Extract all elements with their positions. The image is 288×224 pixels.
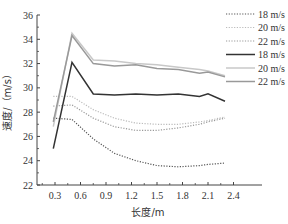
legend-label: 18 m/s — [258, 9, 285, 20]
y-tick-label: 24 — [23, 155, 33, 166]
x-tick-label: 2.4 — [227, 190, 240, 201]
y-tick-label: 34 — [23, 34, 33, 45]
y-axis-title: 速度/（m/s） — [1, 69, 13, 131]
x-tick-label: 1.2 — [125, 190, 138, 201]
x-tick-label: 1.8 — [176, 190, 189, 201]
x-tick-label: 0.9 — [100, 190, 113, 201]
line-chart: 22242628303234360.30.60.91.21.51.82.12.4… — [0, 0, 288, 224]
series-solid-20ms — [53, 33, 225, 127]
y-tick-label: 36 — [23, 10, 33, 21]
x-tick-label: 0.6 — [74, 190, 87, 201]
legend: 18 m/s20 m/s22 m/s18 m/s20 m/s22 m/s — [226, 9, 285, 88]
y-tick-label: 28 — [23, 107, 33, 118]
series-solid-18ms — [53, 62, 225, 148]
series-dotted-20ms — [53, 96, 225, 124]
y-tick-label: 22 — [23, 180, 33, 191]
legend-label: 20 m/s — [258, 22, 285, 33]
series-solid-22ms — [53, 36, 225, 122]
x-tick-label: 1.5 — [151, 190, 164, 201]
x-tick-label: 2.1 — [202, 190, 215, 201]
legend-label: 22 m/s — [258, 76, 285, 87]
legend-label: 18 m/s — [258, 49, 285, 60]
y-tick-label: 26 — [23, 131, 33, 142]
x-axis-title: 长度/m — [131, 206, 164, 218]
y-tick-label: 30 — [23, 82, 33, 93]
legend-label: 20 m/s — [258, 63, 285, 74]
x-tick-label: 0.3 — [49, 190, 62, 201]
series-dotted-22ms — [53, 105, 225, 130]
series-dotted-18ms — [53, 118, 225, 167]
series-lines — [53, 33, 225, 167]
y-tick-label: 32 — [23, 58, 33, 69]
legend-label: 22 m/s — [258, 36, 285, 47]
